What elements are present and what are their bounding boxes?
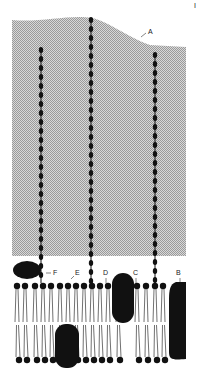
transmembrane-protein-B	[169, 282, 186, 359]
label-E: E	[75, 269, 80, 276]
label-C: C	[133, 269, 138, 276]
peripheral-protein	[13, 261, 41, 279]
lipid-bilayer	[14, 283, 168, 363]
integral-protein-D	[112, 273, 134, 323]
label-F: F	[53, 269, 57, 276]
label-D: D	[103, 269, 108, 276]
integral-protein-lower	[55, 324, 79, 368]
label-B: B	[176, 269, 181, 276]
membrane-diagram: A B C D E F I	[0, 0, 199, 377]
glycocalyx-coat	[12, 17, 186, 256]
label-A: A	[148, 28, 153, 35]
corner-mark: I	[194, 2, 196, 9]
